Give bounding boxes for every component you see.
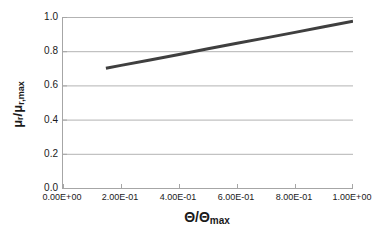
plot-canvas [63,17,353,188]
x-tick-label: 2.00E-01 [102,192,139,203]
x-axis-title-main: Θ/Θ [184,209,210,225]
gridlines [63,18,353,155]
y-tick-label: 0.6 [26,80,58,90]
x-tick-label: 0.00E+00 [43,192,82,203]
y-tick-label: 0.2 [26,149,58,159]
x-axis-title: Θ/Θmax [62,209,352,225]
y-axis-title-main: μᵣ/μ [10,104,25,127]
x-tick-label: 6.00E-01 [218,192,255,203]
x-axis-title-subscript: max [210,215,230,226]
y-tick-label: 1.0 [26,12,58,22]
x-tick-label: 4.00E-01 [160,192,197,203]
plot-area [62,17,353,189]
x-tick-marks [64,184,353,188]
series-line [106,21,353,68]
chart-figure: μᵣ/μr,max 0.0 0.2 0.4 0.6 0.8 1.0 0.00E+… [0,0,387,243]
y-tick-marks [63,18,67,189]
y-tick-label: 0.8 [26,46,58,56]
y-axis-title: μᵣ/μr,max [6,44,28,164]
x-tick-label: 1.00E+00 [333,192,372,203]
x-tick-label: 8.00E-01 [276,192,313,203]
x-axis-tick-labels: 0.00E+00 2.00E-01 4.00E-01 6.00E-01 8.00… [0,192,387,208]
y-tick-label: 0.4 [26,115,58,125]
data-series-group [106,21,353,68]
y-axis-title-subscript: r,max [16,81,26,105]
